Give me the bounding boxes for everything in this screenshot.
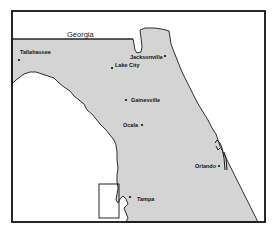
city-label: Ocala: [123, 122, 139, 128]
city-marker-icon: [125, 99, 127, 101]
city-label: Orlando: [195, 163, 217, 169]
georgia-label: Georgia: [67, 30, 95, 39]
city-label: Jacksonville: [130, 54, 163, 60]
city-marker-icon: [129, 196, 131, 198]
city-label: Gainesville: [131, 97, 160, 103]
city-marker-icon: [218, 165, 220, 167]
city-marker-icon: [18, 59, 20, 61]
city-label: Tampa: [137, 196, 155, 202]
city-gainesville: Gainesville: [125, 97, 160, 103]
city-marker-icon: [164, 55, 166, 57]
city-label: Lake City: [115, 62, 140, 68]
city-marker-icon: [111, 67, 113, 69]
florida-map: Georgia Tallahassee Jacksonville Lake Ci…: [0, 0, 274, 230]
city-jacksonville: Jacksonville: [130, 54, 166, 60]
city-marker-icon: [141, 124, 143, 126]
city-label: Tallahassee: [20, 49, 51, 55]
